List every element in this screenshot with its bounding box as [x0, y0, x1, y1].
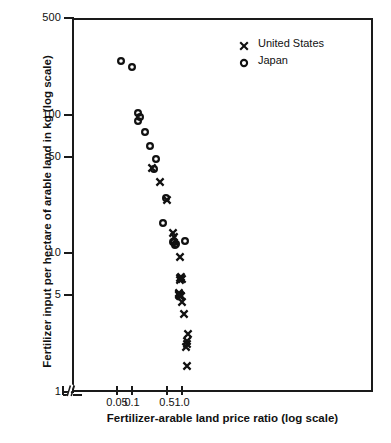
- x-axis-tick: [166, 386, 168, 395]
- legend-marker-x-icon: [238, 38, 250, 50]
- chart-legend: United States Japan: [238, 35, 368, 69]
- legend-item-japan: Japan: [238, 52, 368, 69]
- y-axis-tick-label: 10: [1, 247, 61, 258]
- legend-marker-o-icon: [238, 55, 250, 67]
- y-axis-tick-label: 100: [1, 109, 61, 120]
- legend-label-japan: Japan: [258, 54, 288, 67]
- legend-item-united-states: United States: [238, 35, 368, 52]
- y-axis-title: Fertilizer input per hectare of arable l…: [41, 52, 54, 372]
- x-axis-break-icon: [60, 383, 82, 397]
- x-axis-tick: [131, 386, 133, 395]
- legend-label-united-states: United States: [258, 37, 324, 50]
- y-axis-tick-label: 1: [1, 386, 61, 397]
- figure-container: Fertilizer input per hectare of arable l…: [0, 0, 391, 443]
- x-axis-tick: [181, 386, 183, 395]
- x-axis-tick: [116, 386, 118, 395]
- y-axis-tick-label: 50: [1, 151, 61, 162]
- y-axis-tick-label: 500: [1, 12, 61, 23]
- y-axis-tick-label: 5: [1, 289, 61, 300]
- x-axis-title: Fertilizer-arable land price ratio (log …: [72, 412, 373, 425]
- plot-area: United States Japan: [72, 18, 373, 392]
- x-axis-tick-label: 1.0: [152, 396, 212, 408]
